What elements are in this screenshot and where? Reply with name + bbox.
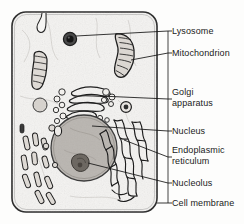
nucleolus xyxy=(71,154,89,171)
label-cell-membrane: Cell membrane xyxy=(172,198,234,209)
label-nucleolus-line1: Nucleolus xyxy=(172,178,212,188)
cell-membrane xyxy=(12,12,157,212)
dark-rod xyxy=(20,124,24,133)
label-nucleolus: Nucleolus xyxy=(172,178,212,189)
label-cell-membrane-line1: Cell membrane xyxy=(172,198,234,208)
label-er-line2: reticulum xyxy=(172,156,225,167)
peroxisome xyxy=(121,102,132,113)
label-er-line1: Endoplasmic xyxy=(172,145,225,155)
label-mitochondrion: Mitochondrion xyxy=(172,48,230,59)
centriole xyxy=(54,126,61,136)
cell-diagram-figure: Lysosome Mitochondrion Golgi apparatus N… xyxy=(0,0,244,224)
lysosome-organelle xyxy=(63,32,76,45)
label-endoplasmic-reticulum: Endoplasmic reticulum xyxy=(172,145,225,166)
label-nucleus-line1: Nucleus xyxy=(172,126,205,136)
label-golgi-apparatus: Golgi apparatus xyxy=(172,87,213,108)
label-lysosome-line1: Lysosome xyxy=(172,26,214,36)
label-mitochondrion-line1: Mitochondrion xyxy=(172,48,230,58)
label-lysosome: Lysosome xyxy=(172,26,214,37)
label-golgi-line2: apparatus xyxy=(172,98,213,109)
vesicle-large-left xyxy=(33,98,47,112)
label-golgi-line1: Golgi xyxy=(172,87,194,97)
label-nucleus: Nucleus xyxy=(172,126,205,137)
